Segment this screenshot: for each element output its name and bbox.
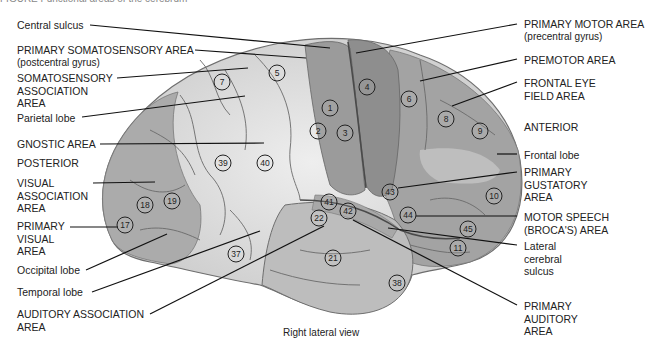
- brodmann-area-11: 11: [450, 240, 467, 257]
- label-primary-motor-area: PRIMARY MOTOR AREA: [524, 18, 644, 31]
- label-primary-gustatory-area: PRIMARY GUSTATORY AREA: [524, 166, 587, 204]
- brodmann-area-43: 43: [382, 184, 399, 201]
- label-posterior: POSTERIOR: [17, 157, 79, 170]
- brodmann-area-5: 5: [269, 65, 286, 82]
- label-frontal-lobe: Frontal lobe: [524, 149, 579, 162]
- brodmann-area-3: 3: [337, 125, 354, 142]
- brodmann-area-6: 6: [401, 91, 418, 108]
- label-frontal-eye-field-area: FRONTAL EYE FIELD AREA: [524, 77, 596, 102]
- brodmann-area-38: 38: [389, 275, 406, 292]
- brodmann-area-40: 40: [257, 155, 274, 172]
- brodmann-area-4: 4: [359, 79, 376, 96]
- brodmann-area-22: 22: [311, 210, 328, 227]
- label-premotor-area: PREMOTOR AREA: [524, 54, 615, 67]
- brodmann-area-8: 8: [438, 111, 455, 128]
- brodmann-area-19: 19: [164, 193, 181, 210]
- brodmann-area-42: 42: [340, 203, 357, 220]
- label-primary-auditory-area: PRIMARY AUDITORY AREA: [524, 300, 578, 338]
- brodmann-area-39: 39: [215, 155, 232, 172]
- label-primary-visual-area: PRIMARY VISUAL AREA: [17, 220, 65, 258]
- brodmann-area-21: 21: [325, 250, 342, 267]
- label-motor-speech-area: MOTOR SPEECH (BROCA'S) AREA: [524, 211, 609, 236]
- brodmann-area-37: 37: [228, 246, 245, 263]
- brodmann-area-18: 18: [137, 197, 154, 214]
- label-visual-association-area: VISUAL ASSOCIATION AREA: [17, 177, 88, 215]
- label-postcentral-gyrus: (postcentral gyrus): [17, 57, 100, 70]
- label-primary-somatosensory-area: PRIMARY SOMATOSENSORY AREA: [17, 44, 194, 57]
- brodmann-area-9: 9: [472, 123, 489, 140]
- label-lateral-cerebral-sulcus: Lateral cerebral sulcus: [524, 240, 562, 278]
- brodmann-area-2: 2: [310, 123, 327, 140]
- brodmann-area-17: 17: [117, 217, 134, 234]
- brodmann-area-10: 10: [486, 188, 503, 205]
- label-temporal-lobe: Temporal lobe: [17, 286, 83, 299]
- label-somatosensory-association-area: SOMATOSENSORY ASSOCIATION AREA: [17, 72, 113, 110]
- label-parietal-lobe: Parietal lobe: [17, 112, 75, 125]
- label-precentral-gyrus: (precentral gyrus): [524, 31, 602, 44]
- label-gnostic-area: GNOSTIC AREA: [17, 138, 96, 151]
- label-auditory-association-area: AUDITORY ASSOCIATION AREA: [17, 308, 144, 333]
- brodmann-area-44: 44: [400, 207, 417, 224]
- label-anterior: ANTERIOR: [524, 121, 578, 134]
- label-central-sulcus: Central sulcus: [17, 19, 84, 32]
- view-label: Right lateral view: [283, 327, 359, 338]
- brodmann-area-7: 7: [214, 74, 231, 91]
- brodmann-area-1: 1: [322, 100, 339, 117]
- brodmann-area-45: 45: [460, 221, 477, 238]
- brodmann-area-41: 41: [321, 194, 338, 211]
- label-occipital-lobe: Occipital lobe: [17, 264, 80, 277]
